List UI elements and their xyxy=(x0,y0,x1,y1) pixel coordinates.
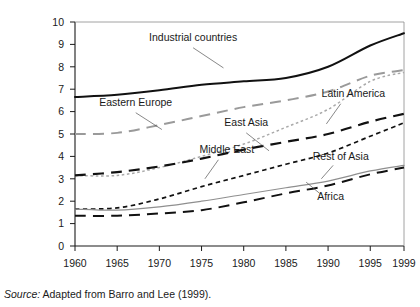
x-tick-label: 1975 xyxy=(190,257,214,269)
series-label-middle-east: Middle East xyxy=(199,143,254,155)
leader-line-industrial-countries xyxy=(193,48,223,68)
source-text: Adapted from Barro and Lee (1999). xyxy=(40,288,211,300)
x-tick-label: 1980 xyxy=(232,257,256,269)
x-tick-label: 1990 xyxy=(316,257,340,269)
x-tick-label: 1960 xyxy=(63,257,87,269)
x-tick-label: 1965 xyxy=(105,257,129,269)
y-tick-label: 0 xyxy=(58,240,64,252)
y-tick-label: 5 xyxy=(58,128,64,140)
x-tick-label: 1999 xyxy=(392,257,416,269)
y-tick-label: 3 xyxy=(58,173,64,185)
x-tick-label: 1985 xyxy=(274,257,298,269)
y-tick-label: 2 xyxy=(58,195,64,207)
series-label-eastern-europe: Eastern Europe xyxy=(99,96,172,108)
leader-line-latin-america xyxy=(326,104,340,124)
y-tick-label: 1 xyxy=(58,217,64,229)
y-tick-label: 10 xyxy=(52,16,64,28)
series-line-middle-east xyxy=(75,123,404,209)
x-axis-ticks: 196019651970197519801985199019951999 xyxy=(63,246,416,269)
education-attainment-line-chart: 012345678910 196019651970197519801985199… xyxy=(0,0,420,307)
chart-figure: 012345678910 196019651970197519801985199… xyxy=(0,0,420,307)
series-label-africa: Africa xyxy=(317,190,344,202)
y-tick-label: 4 xyxy=(58,150,64,162)
series-label-latin-america: Latin America xyxy=(322,87,386,99)
plot-frame xyxy=(75,22,404,246)
y-tick-label: 6 xyxy=(58,105,64,117)
x-tick-label: 1970 xyxy=(148,257,172,269)
source-label: Source: xyxy=(4,288,40,300)
y-tick-label: 7 xyxy=(58,83,64,95)
x-tick-label: 1995 xyxy=(359,257,383,269)
y-tick-label: 8 xyxy=(58,61,64,73)
y-axis-ticks: 012345678910 xyxy=(52,16,75,252)
series-label-east-asia: East Asia xyxy=(224,116,268,128)
source-note: Source: Adapted from Barro and Lee (1999… xyxy=(4,288,211,300)
leader-line-middle-east xyxy=(205,160,218,179)
leader-line-rest-of-asia xyxy=(321,165,333,178)
series-label-industrial-countries: Industrial countries xyxy=(149,31,237,43)
series-label-rest-of-asia: Rest of Asia xyxy=(313,150,369,162)
y-tick-label: 9 xyxy=(58,38,64,50)
